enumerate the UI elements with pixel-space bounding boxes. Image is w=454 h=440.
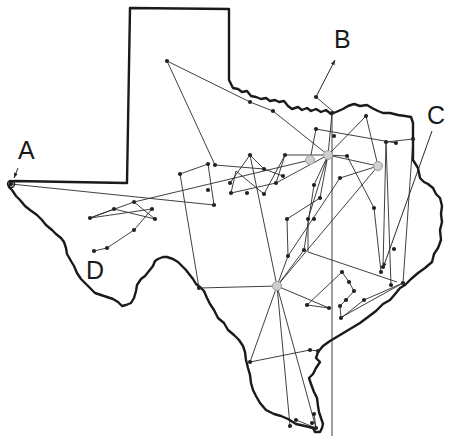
network-node [178,172,182,176]
network-node [88,216,92,220]
network-node [330,111,334,115]
network-edge [134,160,310,202]
network-node [314,127,318,131]
label-a: A [18,138,35,163]
network-node [327,306,331,310]
network-node [281,174,285,178]
network-node [411,137,415,141]
network-node [271,109,275,113]
network-edge [167,61,250,102]
network-edge [107,230,134,248]
network-node [112,207,116,211]
network-node [165,59,169,63]
network-node [262,192,266,196]
network-edge [277,166,378,286]
network-node [372,206,376,210]
network-node [339,316,343,320]
network-node [248,153,252,157]
network-node [340,270,344,274]
hub-east [374,162,383,171]
pointer-b [316,60,335,97]
network-edge [167,61,215,165]
arrowhead-icon [331,60,335,65]
network-edge [307,272,342,305]
network-edge [383,142,386,267]
texas-state-border [9,8,442,432]
network-node [248,360,252,364]
network-node [206,188,210,192]
network-node [401,281,405,285]
network-node [394,141,398,145]
network-node [379,270,383,274]
network-node [262,167,266,171]
network-node [132,228,136,232]
network-node [310,421,314,425]
network-node [338,176,342,180]
network-node [384,140,388,144]
network-node [197,286,201,290]
texas-map [0,0,454,440]
network-edge [277,250,304,286]
network-edge [273,111,328,155]
network-node [314,426,318,430]
network-node [389,283,393,287]
network-node [314,95,318,99]
network-edge [340,283,403,318]
network-node [92,249,96,253]
network-node [318,196,322,200]
label-b: B [334,27,351,52]
network-edge [328,155,378,166]
network-edge [386,139,413,142]
network-edge [403,139,413,283]
network-node [338,304,342,308]
network-node [286,254,290,258]
network-node [312,183,316,187]
network-edge [328,113,332,155]
network-edge [250,286,277,362]
network-edge [250,102,273,111]
network-nodes [8,59,416,430]
network-node [288,424,292,428]
pointer-c [383,131,432,268]
network-edge [134,209,152,230]
network-edge [340,166,378,178]
arrowhead-icon [14,173,18,178]
network-node [362,298,366,302]
network-edges [11,61,413,436]
network-node [213,163,217,167]
network-node [308,348,312,352]
network-node [332,134,336,138]
network-node [312,412,316,416]
network-node [392,247,396,251]
network-node [153,217,157,221]
network-edge [277,286,329,308]
network-edge [215,165,264,169]
network-node [245,191,249,195]
network-node [381,265,385,269]
network-edge [199,286,277,288]
network-node [283,153,287,157]
network-node [352,289,356,293]
label-d: D [86,258,104,283]
network-edge [250,350,310,362]
network-node [9,182,13,186]
network-node [347,280,351,284]
network-edge [374,208,381,272]
hub-north-west [306,156,315,165]
network-node [344,298,348,302]
network-edge [287,219,288,256]
texas-network-diagram: A B C D [0,0,454,440]
network-node [228,181,232,185]
network-node [302,248,306,252]
network-node [316,349,320,353]
network-node [312,217,316,221]
network-node [285,217,289,221]
network-edge [180,164,208,174]
network-edge [366,116,378,166]
network-node [229,191,233,195]
network-node [274,181,278,185]
network-edge [386,142,391,285]
network-node [364,114,368,118]
network-node [132,200,136,204]
network-node [306,217,310,221]
